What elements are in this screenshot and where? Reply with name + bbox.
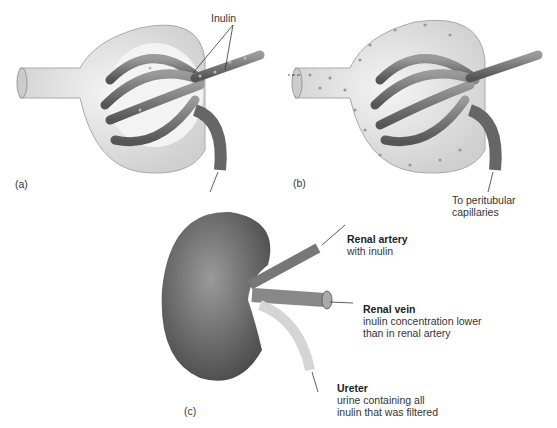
- panel-a-label: (a): [15, 178, 28, 190]
- kidney-c: [162, 212, 353, 392]
- renal-artery-label: Renal artery with inulin: [347, 233, 408, 257]
- panel-c-label: (c): [184, 405, 196, 417]
- glomerulus-a: [17, 25, 260, 192]
- glomerulus-b: [288, 20, 538, 192]
- ureter-label: Ureter urine containing all inulin that …: [337, 382, 438, 418]
- inulin-label: Inulin: [211, 12, 236, 24]
- renal-vein-label: Renal vein inulin concentration lower th…: [363, 303, 481, 339]
- panel-b-label: (b): [293, 177, 306, 189]
- peritubular-label: To peritubular capillaries: [452, 194, 516, 218]
